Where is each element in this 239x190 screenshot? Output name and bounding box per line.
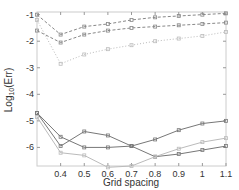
x-tick-label: 0.4 bbox=[54, 169, 67, 179]
x-axis-label: Grid spacing bbox=[103, 177, 159, 188]
x-tick-label: 0.5 bbox=[78, 169, 91, 179]
y-tick-label: -4 bbox=[26, 89, 34, 99]
series-line-solid-b bbox=[37, 113, 226, 157]
series-line-solid-a bbox=[37, 113, 226, 146]
y-tick-label: -3 bbox=[26, 63, 34, 73]
y-tick-label: -5 bbox=[26, 116, 34, 126]
x-tick-label: 0.9 bbox=[172, 169, 185, 179]
line-chart: 0.40.50.60.70.80.911.1-1-2-3-4-5-6 Grid … bbox=[0, 0, 239, 190]
y-tick-label: -6 bbox=[26, 142, 34, 152]
y-tick-label: -1 bbox=[26, 10, 34, 20]
y-axis-label: Log10(Err) bbox=[3, 68, 15, 112]
x-tick-label: 1 bbox=[200, 169, 205, 179]
y-tick-label: -2 bbox=[26, 36, 34, 46]
plot-area: 0.40.50.60.70.80.911.1-1-2-3-4-5-6 bbox=[26, 10, 232, 179]
x-tick-label: 1.1 bbox=[220, 169, 233, 179]
